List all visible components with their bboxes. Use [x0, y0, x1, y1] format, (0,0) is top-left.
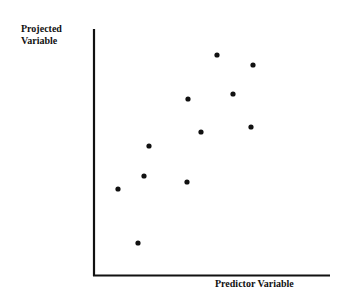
- data-point: [214, 52, 219, 57]
- data-point: [135, 240, 140, 245]
- data-point: [184, 179, 189, 184]
- data-point: [146, 143, 151, 148]
- data-point: [198, 129, 203, 134]
- scatter-plot: [0, 0, 348, 294]
- data-point: [230, 91, 235, 96]
- data-point: [185, 96, 190, 101]
- x-axis-label: Predictor Variable: [215, 278, 294, 289]
- data-point: [141, 173, 146, 178]
- data-point: [250, 62, 255, 67]
- data-point: [248, 124, 253, 129]
- data-point: [115, 186, 120, 191]
- data-points: [115, 52, 255, 245]
